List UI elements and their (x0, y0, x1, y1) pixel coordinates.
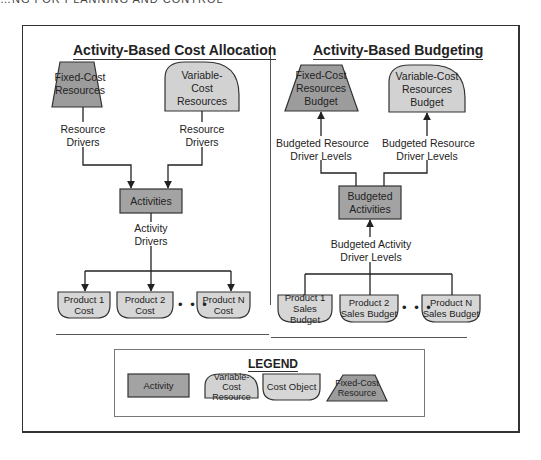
fixed-cost-line1: Fixed-Cost (55, 71, 106, 84)
product-n-cost-line1: Product N (202, 294, 244, 305)
budgeted-activity-levels-label: Budgeted Activity Driver Levels (328, 238, 414, 264)
variable-cost-line2: Cost (191, 82, 213, 95)
fixed-cost-budget-label: Fixed-Cost Resources Budget (290, 66, 352, 110)
product-n-cost-label: Product N Cost (197, 293, 250, 317)
legend-variable-cost-line1: Variable-Cost (205, 372, 258, 392)
product-n-sales-line2: Sales Budget (423, 308, 480, 319)
product-n-sales-budget-label: Product N Sales Budget (422, 296, 480, 320)
resource-drivers-left-label: Resource Drivers (58, 123, 108, 149)
resource-levels-right-line2: Driver Levels (382, 150, 472, 163)
budgeted-resource-levels-left-label: Budgeted Resource Driver Levels (276, 137, 366, 163)
resource-drivers-left-line2: Drivers (58, 136, 108, 149)
fixed-cost-budget-line2: Resources (296, 82, 346, 95)
resource-levels-left-line1: Budgeted Resource (276, 137, 366, 150)
product-1-cost-line2: Cost (74, 305, 94, 316)
left-bottom-rule (56, 334, 269, 335)
activity-drivers-label: Activity Drivers (126, 222, 176, 248)
variable-cost-budget-line2: Resources (402, 83, 452, 96)
activities-label: Activities (120, 189, 182, 213)
legend-activity-label: Activity (128, 374, 189, 397)
panel-divider (270, 45, 271, 305)
product-2-sales-line1: Product 2 (349, 297, 390, 308)
budgeted-activities-line1: Budgeted (348, 190, 393, 203)
resource-levels-right-line1: Budgeted Resource (382, 137, 472, 150)
activity-levels-line1: Budgeted Activity (328, 238, 414, 251)
legend-title: LEGEND (248, 357, 298, 372)
resource-drivers-left-line1: Resource (58, 123, 108, 136)
product-1-cost-line1: Product 1 (64, 294, 105, 305)
variable-cost-line3: Resources (177, 95, 227, 108)
left-panel-title: Activity-Based Cost Allocation (73, 42, 276, 60)
product-1-sales-budget-label: Product 1 Sales Budget (278, 296, 332, 320)
variable-cost-budget-line1: Variable-Cost (396, 70, 459, 83)
product-1-sales-line1: Product 1 (285, 292, 326, 303)
product-n-cost-line2: Cost (214, 305, 234, 316)
product-n-sales-line1: Product N (430, 297, 472, 308)
budgeted-activities-label: Budgeted Activities (339, 187, 401, 218)
legend-cost-object-label: Cost Object (263, 375, 320, 398)
resource-drivers-right-line2: Drivers (177, 136, 227, 149)
activity-levels-line2: Driver Levels (328, 251, 414, 264)
fixed-cost-budget-line1: Fixed-Cost (296, 69, 347, 82)
product-1-cost-label: Product 1 Cost (58, 293, 110, 317)
fixed-cost-budget-line3: Budget (304, 95, 337, 108)
product-2-sales-budget-label: Product 2 Sales Budget (340, 296, 398, 320)
legend-variable-cost-label: Variable-Cost Resource (205, 375, 258, 398)
variable-cost-budget-label: Variable-Cost Resources Budget (389, 67, 465, 111)
product-2-cost-line1: Product 2 (125, 294, 166, 305)
variable-cost-resources-label: Variable- Cost Resources (165, 66, 239, 110)
resource-drivers-right-label: Resource Drivers (177, 123, 227, 149)
variable-cost-budget-line3: Budget (410, 96, 443, 109)
budgeted-resource-levels-right-label: Budgeted Resource Driver Levels (382, 137, 472, 163)
legend-fixed-cost-line1: Fixed-Cost (335, 378, 379, 388)
fixed-cost-line2: Resources (55, 84, 105, 97)
legend-fixed-cost-line2: Resource (338, 388, 377, 398)
resource-drivers-right-line1: Resource (177, 123, 227, 136)
product-2-cost-line2: Cost (135, 305, 155, 316)
right-bottom-rule (271, 337, 467, 338)
product-2-sales-line2: Sales Budget (341, 308, 398, 319)
page-header-clipped: …NG FOR PLANNING AND CONTROL (0, 0, 224, 5)
fixed-cost-resources-label: Fixed-Cost Resources (52, 66, 108, 102)
variable-cost-line1: Variable- (181, 69, 222, 82)
product-2-cost-label: Product 2 Cost (117, 293, 173, 317)
budgeted-activities-line2: Activities (349, 203, 390, 216)
legend-fixed-cost-label: Fixed-Cost Resource (330, 376, 384, 400)
product-1-sales-line2: Sales Budget (278, 303, 332, 325)
legend-variable-cost-line2: Resource (212, 392, 251, 402)
activity-drivers-line1: Activity (126, 222, 176, 235)
resource-levels-left-line2: Driver Levels (276, 150, 366, 163)
activity-drivers-line2: Drivers (126, 235, 176, 248)
right-panel-title: Activity-Based Budgeting (313, 42, 483, 60)
